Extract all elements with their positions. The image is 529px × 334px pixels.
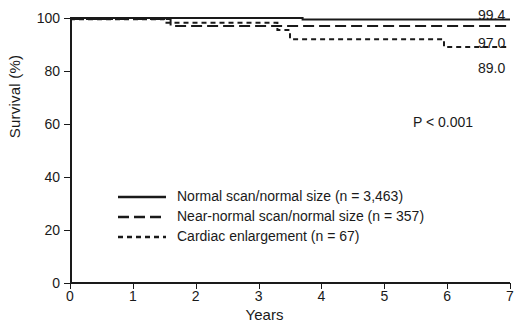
legend-line-swatch [118,210,166,222]
survival-chart-figure: Survival (%) 020406080100 01234567 99.4 … [0,0,529,334]
legend-line-swatch [118,190,166,202]
p-value-annotation: P < 0.001 [413,114,473,130]
endpoint-label-normal: 99.4 [478,8,505,22]
survival-curve-2 [70,19,510,47]
legend-item-label: Cardiac enlargement (n = 67) [177,228,360,244]
legend-item-label: Near-normal scan/normal size (n = 357) [177,208,424,224]
chart-legend: Normal scan/normal size (n = 3,463)Near-… [118,186,424,246]
legend-item: Normal scan/normal size (n = 3,463) [118,186,424,206]
legend-item: Near-normal scan/normal size (n = 357) [118,206,424,226]
survival-curves [0,0,529,334]
x-axis-title: Years [0,306,529,323]
legend-item: Cardiac enlargement (n = 67) [118,226,424,246]
endpoint-label-cardiac: 89.0 [478,61,505,75]
endpoint-label-near-normal: 97.0 [478,36,505,50]
legend-item-label: Normal scan/normal size (n = 3,463) [177,188,403,204]
legend-line-swatch [118,230,166,242]
